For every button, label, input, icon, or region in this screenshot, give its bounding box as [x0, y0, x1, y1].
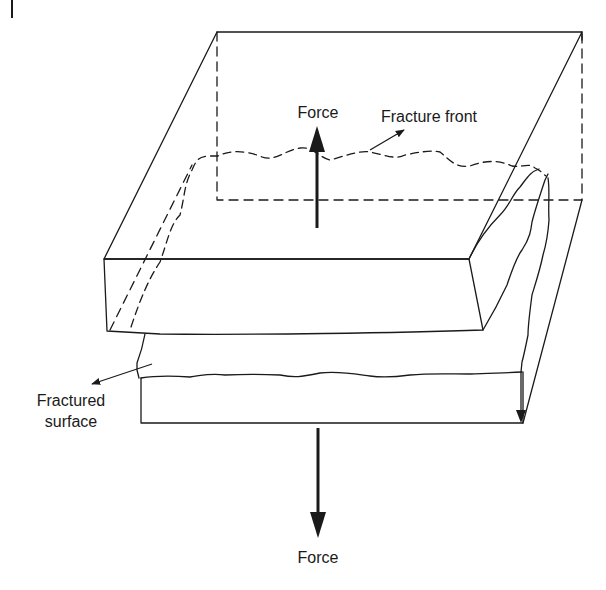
upper-block-front-face — [104, 259, 483, 334]
right-crack-vertical — [521, 178, 549, 418]
force-top-label: Force — [298, 104, 339, 122]
fracture-front-label: Fracture front — [381, 108, 477, 126]
force-down-arrow — [310, 428, 326, 538]
fracture-front-pointer — [370, 130, 404, 150]
lower-block-fractured-edge — [141, 372, 522, 378]
fractured-surface-label-line2: surface — [45, 413, 97, 431]
lower-block — [137, 200, 582, 423]
lower-block-front-face — [141, 372, 523, 423]
left-crack-edge — [137, 334, 145, 378]
right-crack-inner — [483, 174, 548, 330]
hidden-left-edge — [110, 165, 192, 330]
fractured-surface-pointer — [92, 364, 152, 384]
upper-block-top-face — [104, 32, 582, 259]
force-up-arrow — [309, 126, 325, 228]
fracture-front-line — [131, 148, 546, 327]
force-bottom-label: Force — [298, 549, 339, 567]
fracture-diagram — [0, 0, 606, 590]
upper-block — [104, 32, 582, 334]
fractured-surface-label-line1: Fractured — [37, 392, 105, 410]
right-crack-outer — [469, 169, 539, 259]
lower-block-right-edge — [523, 200, 582, 423]
